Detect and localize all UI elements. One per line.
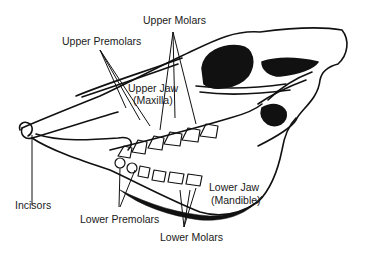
- label-maxilla: (Maxilla): [133, 94, 173, 106]
- label-lower-molars: Lower Molars: [160, 231, 223, 243]
- label-mandible: (Mandible): [211, 194, 261, 206]
- label-upper-jaw: Upper Jaw: [128, 82, 178, 94]
- label-lower-premolars: Lower Premolars: [80, 213, 159, 225]
- label-incisors: Incisors: [15, 199, 51, 211]
- label-lower-jaw: Lower Jaw: [209, 181, 259, 193]
- orbit: [202, 46, 253, 88]
- label-upper-molars: Upper Molars: [143, 14, 206, 26]
- skull-diagram: [0, 0, 367, 255]
- label-upper-premolars: Upper Premolars: [62, 35, 141, 47]
